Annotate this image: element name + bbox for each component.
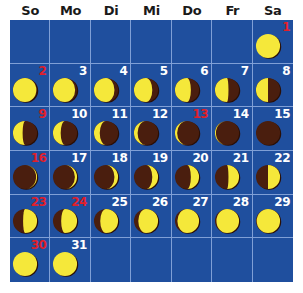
weekday-sunday: So [10, 0, 50, 20]
day-number: 7 [241, 65, 249, 78]
moon-phase-icon [52, 251, 79, 278]
calendar-day-11: 11 [91, 107, 131, 151]
moon-phase-icon [174, 120, 201, 147]
day-number: 9 [39, 108, 47, 121]
calendar-empty-cell [91, 20, 131, 64]
calendar-empty-cell [172, 20, 212, 64]
moon-phase-icon [52, 164, 79, 191]
weekday-header: So Mo Di Mi Do Fr Sa [10, 0, 293, 20]
moon-phase-icon [133, 120, 160, 147]
day-number: 3 [79, 65, 87, 78]
calendar-empty-cell [212, 238, 252, 282]
moon-phase-icon [255, 208, 282, 235]
moon-phase-icon [214, 77, 241, 104]
calendar-day-9: 9 [10, 107, 50, 151]
moon-phase-icon [52, 77, 79, 104]
moon-phase-icon [214, 120, 241, 147]
calendar-day-29: 29 [253, 195, 293, 239]
day-number: 4 [119, 65, 127, 78]
weekday-thursday: Do [172, 0, 212, 20]
moon-phase-icon [12, 208, 39, 235]
calendar-day-1: 1 [253, 20, 293, 64]
calendar-day-6: 6 [172, 64, 212, 108]
calendar-day-22: 22 [253, 151, 293, 195]
moon-phase-icon [133, 77, 160, 104]
calendar-day-23: 23 [10, 195, 50, 239]
calendar-empty-cell [10, 20, 50, 64]
moon-phase-icon [174, 164, 201, 191]
moon-calendar-grid: 1234567891011121314151617181920212223242… [10, 20, 293, 282]
moon-phase-icon [255, 77, 282, 104]
moon-phase-icon [12, 77, 39, 104]
weekday-wednesday: Mi [131, 0, 171, 20]
weekday-monday: Mo [50, 0, 90, 20]
moon-phase-icon [12, 120, 39, 147]
moon-phase-icon [93, 77, 120, 104]
calendar-empty-cell [172, 238, 212, 282]
calendar-day-4: 4 [91, 64, 131, 108]
calendar-day-15: 15 [253, 107, 293, 151]
calendar-day-14: 14 [212, 107, 252, 151]
calendar-day-21: 21 [212, 151, 252, 195]
weekday-saturday: Sa [253, 0, 293, 20]
calendar-empty-cell [131, 238, 171, 282]
moon-phase-icon [255, 164, 282, 191]
calendar-day-20: 20 [172, 151, 212, 195]
day-number: 8 [282, 65, 290, 78]
moon-phase-icon [12, 164, 39, 191]
day-number: 5 [160, 65, 168, 78]
calendar-day-31: 31 [50, 238, 90, 282]
calendar-empty-cell [131, 20, 171, 64]
calendar-day-19: 19 [131, 151, 171, 195]
calendar-empty-cell [253, 238, 293, 282]
calendar-day-12: 12 [131, 107, 171, 151]
day-number: 1 [282, 21, 290, 34]
calendar-day-7: 7 [212, 64, 252, 108]
day-number: 6 [200, 65, 208, 78]
moon-phase-icon [12, 251, 39, 278]
calendar-day-13: 13 [172, 107, 212, 151]
calendar-day-17: 17 [50, 151, 90, 195]
moon-phase-icon [214, 164, 241, 191]
calendar-day-3: 3 [50, 64, 90, 108]
calendar-day-5: 5 [131, 64, 171, 108]
moon-phase-icon [52, 120, 79, 147]
moon-phase-icon [52, 208, 79, 235]
calendar-day-24: 24 [50, 195, 90, 239]
calendar-day-27: 27 [172, 195, 212, 239]
calendar-day-8: 8 [253, 64, 293, 108]
moon-phase-icon [93, 208, 120, 235]
moon-phase-icon [174, 208, 201, 235]
calendar-empty-cell [50, 20, 90, 64]
calendar-day-16: 16 [10, 151, 50, 195]
calendar-empty-cell [212, 20, 252, 64]
moon-phase-icon [255, 120, 282, 147]
calendar-day-10: 10 [50, 107, 90, 151]
moon-phase-icon [214, 208, 241, 235]
moon-phase-icon [133, 208, 160, 235]
weekday-friday: Fr [212, 0, 252, 20]
moon-phase-icon [93, 164, 120, 191]
moon-phase-icon [174, 77, 201, 104]
calendar-day-30: 30 [10, 238, 50, 282]
calendar-empty-cell [91, 238, 131, 282]
weekday-tuesday: Di [91, 0, 131, 20]
calendar-day-2: 2 [10, 64, 50, 108]
day-number: 2 [39, 65, 47, 78]
calendar-day-28: 28 [212, 195, 252, 239]
moon-phase-icon [133, 164, 160, 191]
calendar-day-18: 18 [91, 151, 131, 195]
calendar-day-25: 25 [91, 195, 131, 239]
calendar-day-26: 26 [131, 195, 171, 239]
moon-phase-icon [93, 120, 120, 147]
moon-phase-icon [255, 33, 282, 60]
